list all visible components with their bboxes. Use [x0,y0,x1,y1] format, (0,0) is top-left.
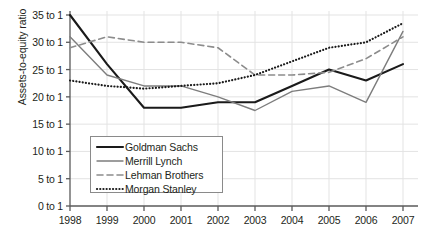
svg-text:15 to 1: 15 to 1 [32,118,63,130]
legend-swatch-dashed-icon [95,168,125,182]
svg-text:20 to 1: 20 to 1 [32,91,63,103]
svg-text:2002: 2002 [207,214,230,226]
svg-text:25 to 1: 25 to 1 [32,64,63,76]
legend-swatch-dotted-icon [95,182,125,196]
chart-plot-area: 0 to 15 to 110 to 115 to 120 to 125 to 1… [0,0,422,242]
svg-text:35 to 1: 35 to 1 [32,9,63,21]
legend-label: Merrill Lynch [125,154,182,168]
svg-text:5 to 1: 5 to 1 [38,173,63,185]
legend-swatch-solid-gray-icon [95,154,125,168]
svg-text:30 to 1: 30 to 1 [32,36,63,48]
svg-text:2000: 2000 [133,214,156,226]
legend-item-goldman-sachs: Goldman Sachs [95,140,217,154]
svg-text:2001: 2001 [170,214,193,226]
svg-text:10 to 1: 10 to 1 [32,145,63,157]
legend-label: Lehman Brothers [125,168,203,182]
svg-text:2007: 2007 [392,214,415,226]
svg-text:2004: 2004 [281,214,304,226]
svg-text:0 to 1: 0 to 1 [38,200,63,212]
svg-text:2003: 2003 [244,214,267,226]
svg-text:2005: 2005 [318,214,341,226]
y-axis-ticks: 0 to 15 to 110 to 115 to 120 to 125 to 1… [32,9,70,212]
legend-swatch-solid-black-icon [95,140,125,154]
svg-text:1999: 1999 [96,214,119,226]
legend-label: Morgan Stanley [125,182,196,196]
assets-to-equity-ratio-chart: Assets-to-equity ratio 0 to 15 to 110 to… [0,0,422,242]
legend-item-morgan-stanley: Morgan Stanley [95,182,217,196]
chart-legend: Goldman Sachs Merrill Lynch Lehman Broth… [90,136,223,193]
x-axis-ticks: 1998199920002001200220032004200520062007 [59,206,415,226]
svg-text:2006: 2006 [355,214,378,226]
legend-label: Goldman Sachs [125,140,198,154]
svg-text:1998: 1998 [59,214,82,226]
legend-item-merrill-lynch: Merrill Lynch [95,154,217,168]
legend-item-lehman-brothers: Lehman Brothers [95,168,217,182]
data-series [70,15,403,111]
